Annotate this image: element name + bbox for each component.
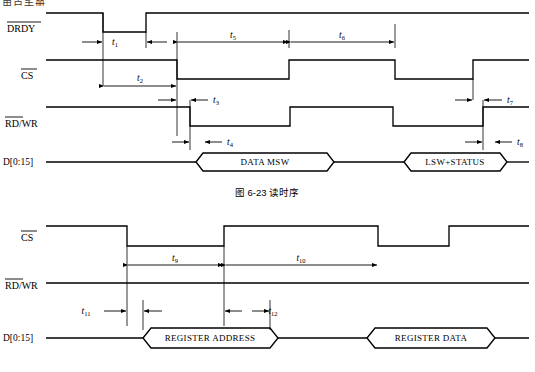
timing-label-t11: t11: [82, 306, 91, 317]
signal-label-drdy: DRDY: [7, 23, 35, 34]
figure-caption-read-timing: 图 6-23 读时序: [235, 187, 299, 198]
bus-cell-lsw-status: LSW+STATUS: [425, 157, 484, 167]
bus-cell-register-address: REGISTER ADDRESS: [165, 333, 256, 343]
timing-label-t4: t4: [227, 137, 234, 148]
waveform-drdy: [46, 13, 529, 32]
bus-cell-register-data: REGISTER DATA: [395, 333, 468, 343]
timing-label-t6: t6: [339, 30, 346, 41]
timing-label-t8: t8: [517, 137, 523, 148]
signal-label-cs-bottom: CS: [21, 232, 33, 243]
timing-label-t12: t12: [268, 306, 277, 317]
timing-diagram-figure: DRDY CS RD/WR D[0:15] CS RD/WR D[0:15] D…: [0, 0, 535, 372]
timing-label-t2: t2: [137, 73, 143, 84]
signal-label-d-bus-bottom: D[0:15]: [3, 333, 33, 343]
signal-label-rdwr-bottom: RD/WR: [5, 280, 38, 291]
timing-label-t1: t1: [112, 37, 118, 48]
timing-label-t3: t3: [213, 95, 219, 106]
signal-label-rdwr-top: RD/WR: [5, 118, 38, 129]
waveform-cs-bottom: [46, 226, 529, 246]
timing-label-t9: t9: [172, 253, 178, 264]
waveform-cs-top: [46, 60, 529, 79]
timing-label-t5: t5: [230, 30, 236, 41]
signal-label-d-bus-top: D[0:15]: [3, 157, 33, 167]
signal-label-cs-top: CS: [21, 70, 33, 81]
timing-label-t10: t10: [296, 253, 305, 264]
bus-cell-data-msw: DATA MSW: [241, 157, 290, 167]
timing-label-t7: t7: [507, 95, 514, 106]
waveform-rdwr-top: [46, 107, 529, 126]
